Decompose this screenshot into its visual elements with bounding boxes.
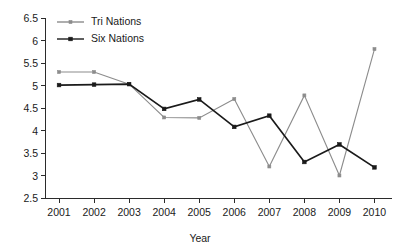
data-point-marker [338,143,342,147]
x-tick-label: 2008 [293,206,317,218]
data-point-marker [198,116,201,119]
data-point-marker [232,125,236,129]
x-tick-label: 2001 [47,206,71,218]
y-tick-label: 6 [32,35,38,47]
data-point-marker [57,83,61,87]
x-axis: 2001200220032004200520062007200820092010 [45,198,392,218]
y-tick-label: 5 [32,80,38,92]
series-line [59,84,374,167]
x-tick-label: 2005 [188,206,212,218]
data-point-marker [303,160,307,164]
y-axis: 2.533.544.555.566.5 [23,12,45,204]
data-point-marker [373,166,377,170]
legend-marker [69,21,72,24]
data-point-marker [233,98,236,101]
x-tick-label: 2009 [328,206,352,218]
x-tick-label: 2003 [117,206,141,218]
data-point-marker [163,116,166,119]
x-tick-label: 2007 [258,206,282,218]
data-point-marker [303,94,306,97]
data-point-marker [92,83,96,87]
data-point-marker [338,174,341,177]
y-tick-label: 5.5 [23,57,38,69]
chart-canvas: 2.533.544.555.566.5 20012002200320042005… [0,0,405,247]
legend-label: Six Nations [91,32,144,44]
legend-marker [69,37,73,41]
line-chart: 2.533.544.555.566.5 20012002200320042005… [0,0,405,247]
x-axis-title: Year [189,232,211,244]
data-point-marker [197,98,201,102]
data-point-marker [268,114,272,118]
data-point-marker [93,71,96,74]
y-tick-label: 4.5 [23,102,38,114]
data-point-marker [58,71,61,74]
data-point-marker [268,165,271,168]
y-tick-label: 2.5 [23,192,38,204]
x-tick-label: 2010 [363,206,387,218]
y-tick-label: 6.5 [23,12,38,24]
x-tick-label: 2004 [152,206,176,218]
y-tick-label: 3 [32,170,38,182]
y-tick-label: 4 [32,125,38,137]
series-six-nations [57,82,376,169]
data-point-marker [373,48,376,51]
data-point-marker [127,82,131,86]
legend-item-tri-nations[interactable]: Tri Nations [57,15,141,27]
data-point-marker [162,107,166,111]
legend-label: Tri Nations [91,15,141,27]
chart-legend: Tri NationsSix Nations [57,15,144,44]
series-layer [57,48,376,177]
legend-item-six-nations[interactable]: Six Nations [57,32,144,44]
x-tick-label: 2006 [223,206,247,218]
y-tick-label: 3.5 [23,147,38,159]
x-tick-label: 2002 [82,206,106,218]
